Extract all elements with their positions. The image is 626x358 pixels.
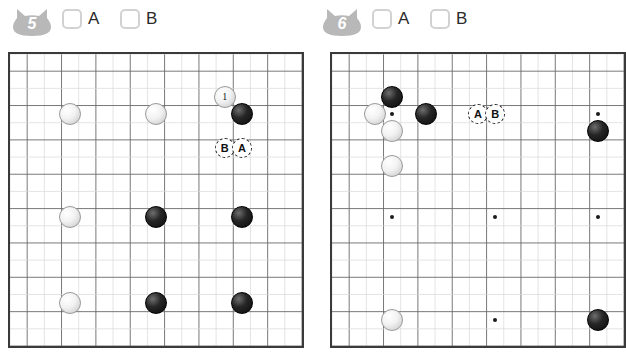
stone-black <box>381 86 403 108</box>
stone-black <box>415 103 437 125</box>
panel-6-checkbox-a-box[interactable] <box>372 9 392 29</box>
stone-white <box>381 120 403 142</box>
go-board-5[interactable]: BA1 <box>8 52 304 348</box>
star-point <box>493 215 497 219</box>
panel-5-checkbox-a-label: A <box>88 9 99 29</box>
panel-5-checkbox-b-box[interactable] <box>120 9 140 29</box>
panel-5-header: 5 A B <box>0 0 310 46</box>
panel-6-number: 6 <box>320 6 364 38</box>
star-point <box>390 215 394 219</box>
panel-5-number: 5 <box>10 6 54 38</box>
problem-panel-5: 5 A B BA1 <box>0 0 310 358</box>
star-point <box>596 215 600 219</box>
stone-black <box>231 206 253 228</box>
board-grid-6 <box>332 54 624 346</box>
board-marker-a[interactable]: A <box>232 138 252 158</box>
panel-6-checkbox-b-label: B <box>456 9 467 29</box>
panel-5-checkbox-a[interactable]: A <box>62 9 99 29</box>
stone-white <box>364 103 386 125</box>
panel-5-checkbox-b[interactable]: B <box>120 9 157 29</box>
stone-white <box>59 103 81 125</box>
star-point <box>390 112 394 116</box>
go-board-6[interactable]: AB <box>330 52 626 348</box>
stone-black <box>231 292 253 314</box>
panel-6-number-badge: 6 <box>320 6 364 38</box>
panel-6-header: 6 A B <box>310 0 617 46</box>
stone-white <box>381 155 403 177</box>
panel-5-checkbox-b-label: B <box>146 9 157 29</box>
stone-white-move-1: 1 <box>214 86 236 108</box>
panel-5-checkbox-a-box[interactable] <box>62 9 82 29</box>
stone-black <box>587 309 609 331</box>
stone-black <box>145 206 167 228</box>
stone-white <box>145 103 167 125</box>
star-point <box>493 318 497 322</box>
panel-6-checkbox-a[interactable]: A <box>372 9 409 29</box>
board-marker-b[interactable]: B <box>485 104 505 124</box>
star-point <box>596 112 600 116</box>
stone-black <box>587 120 609 142</box>
stone-white <box>59 292 81 314</box>
stone-white <box>381 309 403 331</box>
panel-6-checkbox-b-box[interactable] <box>430 9 450 29</box>
stone-white <box>59 206 81 228</box>
panel-6-checkbox-b[interactable]: B <box>430 9 467 29</box>
panel-6-checkbox-a-label: A <box>398 9 409 29</box>
stone-black <box>231 103 253 125</box>
stone-black <box>145 292 167 314</box>
problem-panel-6: 6 A B AB <box>310 0 617 358</box>
panel-5-number-badge: 5 <box>10 6 54 38</box>
stone-move-number: 1 <box>215 87 235 107</box>
